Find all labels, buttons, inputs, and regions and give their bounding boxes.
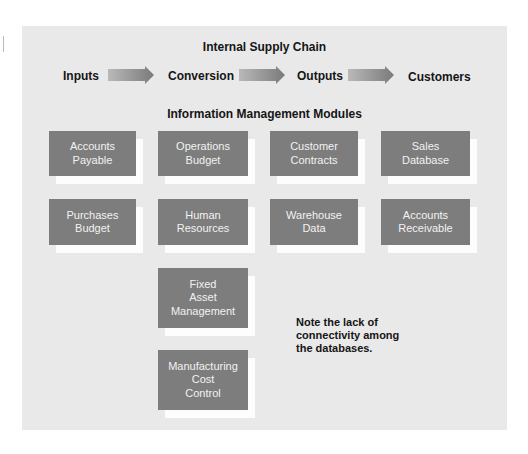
right-arrow-icon [108, 66, 154, 84]
module-warehouse-data: Warehouse Data [270, 199, 358, 245]
right-arrow-icon [348, 66, 394, 84]
flow-inputs: Inputs [63, 69, 99, 83]
flow-customers: Customers [408, 70, 471, 84]
module-fixed-asset-management: Fixed Asset Management [158, 268, 248, 328]
diagram-panel: Internal Supply Chain Inputs Conversion … [22, 26, 507, 430]
supply-chain-title: Internal Supply Chain [22, 40, 507, 54]
module-purchases-budget: Purchases Budget [49, 199, 136, 245]
module-accounts-receivable: Accounts Receivable [381, 199, 470, 245]
flow-outputs: Outputs [297, 69, 343, 83]
module-human-resources: Human Resources [158, 199, 248, 245]
module-customer-contracts: Customer Contracts [270, 131, 358, 176]
connectivity-note: Note the lack of connectivity among the … [296, 316, 399, 355]
module-operations-budget: Operations Budget [158, 131, 248, 176]
module-manufacturing-cost-control: Manufacturing Cost Control [158, 350, 248, 410]
flow-conversion: Conversion [168, 69, 234, 83]
module-sales-database: Sales Database [381, 131, 470, 176]
page-edge-mark [0, 36, 4, 52]
module-accounts-payable: Accounts Payable [49, 131, 136, 176]
modules-title: Information Management Modules [22, 107, 507, 121]
right-arrow-icon [239, 66, 285, 84]
